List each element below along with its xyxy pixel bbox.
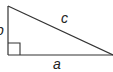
right-angle-marker [8, 43, 20, 55]
label-c: c [61, 10, 68, 26]
right-triangle-diagram: c a b [0, 0, 113, 72]
label-b: b [0, 22, 4, 38]
label-a: a [53, 56, 61, 72]
